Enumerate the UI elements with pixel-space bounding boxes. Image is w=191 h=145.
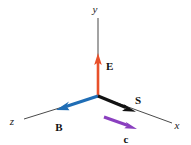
vector-label-S: S <box>135 94 141 106</box>
vector-diagram-figure: y x z E B S c <box>0 0 191 145</box>
axis-label-z: z <box>9 115 15 127</box>
axis-label-x: x <box>174 119 180 131</box>
axis-label-y: y <box>92 3 98 15</box>
vector-E-group <box>94 53 102 96</box>
vector-B-group <box>56 96 98 110</box>
vector-S-group <box>98 96 136 112</box>
vector-B-shaft <box>66 96 98 106</box>
vector-S-shaft <box>98 96 126 108</box>
vector-c-group <box>104 117 137 129</box>
vector-label-B: B <box>55 121 63 133</box>
vector-c-shaft <box>104 117 128 126</box>
vector-label-c: c <box>124 133 129 145</box>
diagram-canvas: y x z E B S c <box>0 0 191 145</box>
vector-label-E: E <box>106 60 113 72</box>
